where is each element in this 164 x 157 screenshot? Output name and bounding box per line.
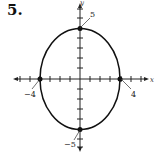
y-axis-down-arrow-icon [78, 147, 82, 152]
point-right [118, 77, 123, 82]
x-axis-left-arrow-icon [13, 77, 18, 81]
ellipse-graph: x y [0, 0, 164, 157]
point-bottom [78, 127, 83, 132]
x-axis-label: x [150, 76, 154, 84]
x-axis-right-arrow-icon [144, 77, 149, 81]
label-right: 4 [131, 90, 136, 99]
point-top [78, 26, 83, 31]
label-bottom: −5 [64, 140, 76, 149]
x-axis: x [13, 76, 154, 84]
label-top: 5 [90, 10, 95, 19]
label-left: −4 [24, 90, 36, 99]
y-axis-label: y [79, 0, 85, 7]
